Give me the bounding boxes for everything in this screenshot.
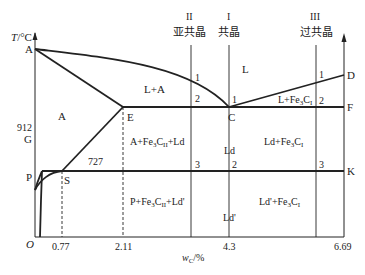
region-Ld-Fe3CI: Ld+Fe3CI [264, 136, 303, 151]
point-D: D [347, 70, 355, 81]
point-A: A [25, 44, 33, 55]
region-P-Fe3CII-Ldprime: P+Fe3CII+Ld' [130, 196, 185, 211]
y-axis-arrow-icon [33, 32, 38, 40]
alloy-III-name: 过共晶 [300, 27, 333, 38]
marker-III-3: 3 [319, 159, 324, 170]
y-axis-label: T/°C [11, 32, 32, 43]
x-tick-2-11: 2.11 [115, 241, 132, 252]
point-S: S [64, 175, 70, 186]
region-Ldprime: Ld' [223, 212, 236, 223]
alloy-III-roman: III [310, 11, 320, 22]
x-tick-0-77: 0.77 [52, 241, 70, 252]
marker-I-1: 1 [232, 94, 237, 105]
point-F: F [347, 102, 353, 113]
region-L: L [242, 64, 249, 75]
x-axis-label: wC/% [182, 252, 204, 267]
temp-727: 727 [88, 156, 103, 167]
marker-II-3: 3 [195, 159, 200, 170]
right-axis-arrow-icon [342, 33, 347, 42]
point-K: K [347, 166, 355, 177]
alloy-I-name: 共晶 [218, 27, 240, 38]
point-C: C [228, 112, 235, 123]
region-Ldprime-Fe3CI: Ld'+Fe3CI [259, 196, 300, 211]
point-E: E [127, 112, 134, 123]
marker-I-2: 2 [232, 159, 237, 170]
region-L-plus-A: L+A [144, 84, 165, 95]
region-A-Fe3CII-Ld: A+Fe3CII+Ld [130, 136, 184, 151]
region-Ld: Ld [224, 145, 235, 156]
marker-II-1: 1 [195, 72, 200, 83]
marker-II-2: 2 [195, 93, 200, 104]
x-tick-4-3: 4.3 [223, 241, 236, 252]
alloy-II-name: 亚共晶 [173, 27, 206, 38]
solidus-AE [35, 49, 123, 107]
marker-III-1: 1 [319, 69, 324, 80]
region-L-plus-Fe3CI: L+Fe3CI [278, 94, 312, 109]
marker-III-2: 2 [319, 95, 324, 106]
point-G: G [24, 134, 32, 145]
alloy-I-roman: I [227, 11, 230, 22]
x-tick-6-69: 6.69 [334, 241, 352, 252]
region-A: A [58, 111, 66, 122]
y-tick-912: 912 [17, 122, 32, 133]
point-P: P [26, 172, 32, 183]
alloy-II-roman: II [186, 11, 193, 22]
origin-O: O [26, 239, 34, 250]
